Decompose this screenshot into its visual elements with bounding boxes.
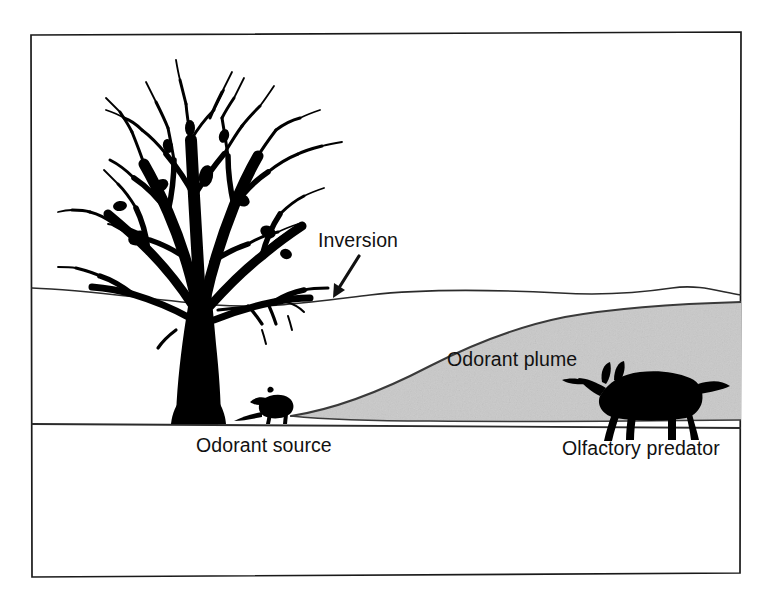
tree-ink-mass-6 [185, 120, 195, 136]
page-background [0, 0, 772, 600]
inversion-label: Inversion [318, 229, 398, 251]
figure-root: Inversion Odorant plume Odorant source O… [0, 0, 772, 600]
odorant-plume-label: Odorant plume [447, 348, 577, 370]
diagram-canvas: Inversion Odorant plume Odorant source O… [0, 0, 772, 600]
tree-root-flare [171, 398, 226, 424]
tree-twiglet-12 [58, 267, 76, 268]
olfactory-predator-label: Olfactory predator [562, 437, 720, 459]
odorant-source-label: Odorant source [196, 434, 332, 456]
